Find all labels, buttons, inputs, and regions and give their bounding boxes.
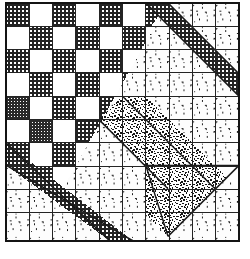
quilt-figure bbox=[0, 0, 250, 259]
quilt-block-diagram bbox=[0, 0, 250, 259]
